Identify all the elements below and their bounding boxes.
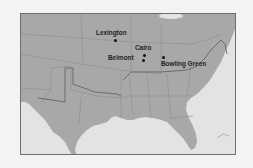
city-dot-belmont bbox=[142, 59, 145, 62]
city-dot-bowling-green bbox=[162, 56, 165, 59]
land-mass bbox=[21, 14, 236, 155]
island-outline bbox=[217, 134, 229, 138]
city-label-lexington: Lexington bbox=[96, 30, 127, 36]
map-frame: Lexington Cairo Belmont Bowling Green bbox=[20, 13, 236, 155]
city-label-belmont: Belmont bbox=[108, 55, 134, 61]
city-label-bowling-green: Bowling Green bbox=[161, 61, 206, 67]
city-dot-cairo bbox=[143, 54, 146, 57]
city-label-cairo: Cairo bbox=[135, 45, 151, 51]
city-dot-lexington bbox=[114, 39, 117, 42]
map-graphic bbox=[21, 14, 236, 155]
